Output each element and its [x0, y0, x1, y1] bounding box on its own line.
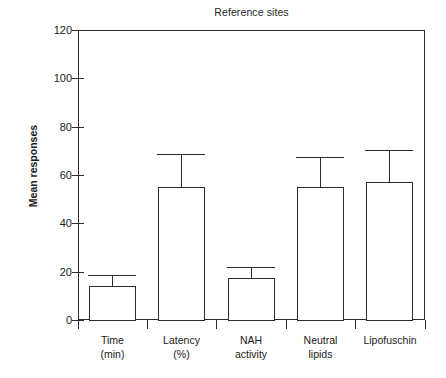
bar-neutral-lipids: [297, 187, 344, 321]
y-tick-mark-80: [72, 127, 84, 128]
y-tick-mark-60: [72, 175, 84, 176]
bar-nah-activity: [228, 278, 275, 321]
x-category-line1-lipofuschin: Lipofuschin: [363, 334, 416, 346]
x-category-label-nah-activity: NAH activity: [216, 333, 286, 361]
x-category-line1-latency-pct: Latency: [163, 334, 200, 346]
y-tick-mark-40: [72, 223, 84, 224]
bar-time-min: [89, 286, 136, 321]
error-cap-neutral-lipids: [296, 157, 344, 158]
x-category-label-time-min: Time (min): [78, 333, 147, 361]
x-category-line2-time-min: (min): [78, 347, 147, 361]
bar-chart-figure: Reference sites Mean responses 120 100 8…: [0, 0, 446, 378]
bar-lipofuschin: [366, 182, 413, 321]
x-category-line2-latency-pct: (%): [147, 347, 216, 361]
x-category-line1-time-min: Time: [101, 334, 124, 346]
y-tick-label-40: 40: [30, 217, 72, 229]
y-tick-label-0: 0: [30, 314, 72, 326]
x-category-label-lipofuschin: Lipofuschin: [355, 333, 425, 347]
y-tick-label-60: 60: [30, 169, 72, 181]
x-tick-mark-2: [216, 320, 217, 329]
chart-title: Reference sites: [78, 6, 425, 18]
y-tick-label-100: 100: [30, 72, 72, 84]
error-cap-time-min: [88, 275, 136, 276]
error-stem-neutral-lipids: [320, 157, 321, 188]
error-cap-nah-activity: [227, 267, 275, 268]
y-tick-label-80: 80: [30, 121, 72, 133]
error-stem-lipofuschin: [389, 150, 390, 183]
y-tick-mark-120: [72, 30, 84, 31]
error-cap-lipofuschin: [365, 150, 413, 151]
error-stem-time-min: [112, 275, 113, 287]
error-stem-nah-activity: [251, 267, 252, 279]
x-tick-mark-1: [147, 320, 148, 329]
x-category-line2-nah-activity: activity: [216, 347, 286, 361]
y-tick-mark-100: [72, 78, 84, 79]
y-axis-tick-labels: 120 100 80 60 40 20 0: [28, 0, 72, 378]
error-cap-latency-pct: [157, 154, 205, 155]
x-tick-mark-0: [78, 320, 79, 329]
x-category-label-neutral-lipids: Neutral lipids: [286, 333, 355, 361]
x-category-line1-neutral-lipids: Neutral: [304, 334, 338, 346]
x-category-line2-neutral-lipids: lipids: [286, 347, 355, 361]
y-tick-mark-20: [72, 272, 84, 273]
x-tick-mark-4: [355, 320, 356, 329]
x-category-label-latency-pct: Latency (%): [147, 333, 216, 361]
error-stem-latency-pct: [181, 154, 182, 188]
x-tick-mark-3: [286, 320, 287, 329]
y-tick-label-120: 120: [30, 24, 72, 36]
x-tick-mark-5: [425, 320, 426, 329]
y-tick-label-20: 20: [30, 266, 72, 278]
bar-latency-pct: [158, 187, 205, 321]
x-category-line1-nah-activity: NAH: [240, 334, 262, 346]
